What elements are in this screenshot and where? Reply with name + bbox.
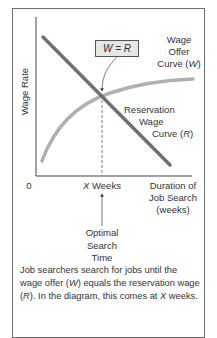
origin-label: 0 [24, 180, 34, 191]
x-axis-label: Duration of Job Search (weeks) [140, 180, 206, 216]
figure-caption: Job searchers search for jobs until the … [20, 264, 200, 304]
optimal-search-time-label: Optimal Search Time [72, 227, 132, 265]
equality-box: W = R [95, 40, 139, 57]
reservation-curve-label: Reservation Wage Curve (R) [124, 104, 204, 140]
wage-offer-curve-label: Wage Offer Curve (W) [152, 34, 206, 70]
x-weeks-label: X Weeks [72, 180, 132, 191]
y-axis-label: Wage Rate [19, 62, 30, 122]
equality-arrow [102, 57, 117, 90]
